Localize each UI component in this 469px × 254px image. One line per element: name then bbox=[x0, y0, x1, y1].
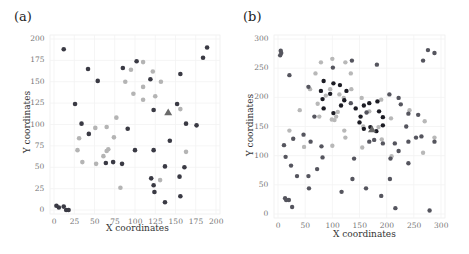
data-point bbox=[151, 108, 156, 113]
data-point bbox=[141, 97, 146, 102]
data-point bbox=[131, 91, 136, 96]
data-point bbox=[379, 97, 383, 101]
data-point bbox=[330, 57, 334, 61]
data-point bbox=[178, 72, 183, 77]
data-point bbox=[57, 205, 62, 210]
data-point bbox=[389, 116, 393, 120]
x-tick-label: 125 bbox=[148, 217, 162, 226]
data-point bbox=[101, 154, 106, 159]
data-point bbox=[367, 101, 371, 105]
data-point bbox=[278, 53, 282, 57]
data-point bbox=[184, 121, 189, 126]
data-point bbox=[291, 137, 295, 141]
data-point bbox=[353, 106, 357, 110]
data-point bbox=[86, 67, 91, 72]
data-point bbox=[175, 102, 180, 107]
data-point bbox=[159, 79, 164, 84]
scatter-plot-b bbox=[235, 0, 469, 254]
x-tick-label: 50 bbox=[301, 221, 311, 230]
data-point bbox=[362, 103, 366, 107]
data-point bbox=[158, 178, 163, 183]
data-point bbox=[114, 115, 119, 120]
data-point bbox=[295, 174, 299, 178]
data-point bbox=[306, 85, 310, 89]
data-point bbox=[358, 114, 362, 118]
data-point bbox=[387, 92, 391, 96]
data-point bbox=[331, 81, 335, 85]
x-tick-label: 25 bbox=[70, 217, 80, 226]
data-point bbox=[396, 149, 400, 153]
data-point bbox=[152, 190, 157, 195]
data-point bbox=[421, 151, 425, 155]
data-point bbox=[332, 118, 336, 122]
data-point bbox=[404, 124, 408, 128]
data-point bbox=[104, 161, 109, 166]
data-point bbox=[339, 190, 343, 194]
y-tick-label: 200 bbox=[254, 92, 268, 101]
x-tick-label: 150 bbox=[353, 221, 367, 230]
x-tick-label: 175 bbox=[189, 217, 203, 226]
data-point bbox=[321, 79, 325, 83]
y-tick-label: 200 bbox=[30, 34, 44, 43]
data-point bbox=[153, 94, 158, 99]
data-point bbox=[324, 93, 328, 97]
x-tick-label: 75 bbox=[110, 217, 120, 226]
data-point bbox=[151, 69, 156, 74]
x-tick-label: 200 bbox=[209, 217, 223, 226]
data-point bbox=[350, 177, 354, 181]
data-point bbox=[343, 60, 347, 64]
data-point bbox=[168, 138, 173, 143]
data-point bbox=[393, 206, 397, 210]
data-point bbox=[61, 47, 66, 52]
data-point bbox=[141, 60, 146, 65]
data-point bbox=[94, 162, 99, 167]
data-point bbox=[287, 198, 291, 202]
data-point bbox=[178, 107, 183, 112]
data-point bbox=[313, 71, 317, 75]
data-point bbox=[377, 109, 381, 113]
data-point bbox=[287, 73, 291, 77]
data-point bbox=[379, 194, 383, 198]
data-point bbox=[406, 139, 410, 143]
data-point bbox=[331, 111, 335, 115]
x-axis-label-b: X coordinates bbox=[333, 229, 396, 239]
data-point bbox=[399, 102, 403, 106]
data-point bbox=[380, 137, 384, 141]
data-point bbox=[349, 101, 353, 105]
data-point bbox=[337, 92, 341, 96]
data-point bbox=[93, 126, 98, 131]
x-tick-label: 0 bbox=[52, 217, 57, 226]
data-point bbox=[315, 102, 319, 106]
data-point bbox=[330, 144, 334, 148]
y-tick-label: 100 bbox=[30, 120, 44, 129]
data-point bbox=[141, 85, 146, 90]
data-point bbox=[364, 186, 368, 190]
data-point bbox=[95, 79, 100, 84]
data-point bbox=[421, 58, 425, 62]
data-point bbox=[75, 148, 80, 153]
data-point bbox=[104, 125, 109, 130]
data-point bbox=[112, 135, 117, 140]
data-point bbox=[381, 123, 385, 127]
data-point bbox=[306, 174, 310, 178]
data-point bbox=[432, 139, 436, 143]
data-point bbox=[87, 132, 92, 137]
data-point bbox=[419, 134, 423, 138]
data-point bbox=[205, 45, 210, 50]
data-point bbox=[393, 141, 397, 145]
data-point bbox=[406, 161, 410, 165]
data-point bbox=[307, 186, 311, 190]
data-point bbox=[282, 143, 286, 147]
data-point bbox=[375, 99, 379, 103]
data-point bbox=[149, 176, 154, 181]
y-tick-label: 25 bbox=[35, 184, 45, 193]
data-point bbox=[416, 113, 420, 117]
chart-panel-b: (b) X coordinates Y coordinates 05010015… bbox=[235, 0, 469, 254]
data-point bbox=[359, 96, 363, 100]
x-tick-label: 0 bbox=[276, 221, 281, 230]
y-tick-label: 75 bbox=[35, 141, 45, 150]
data-point bbox=[321, 106, 325, 110]
data-point bbox=[367, 139, 371, 143]
data-point bbox=[423, 119, 427, 123]
data-point bbox=[406, 111, 410, 115]
